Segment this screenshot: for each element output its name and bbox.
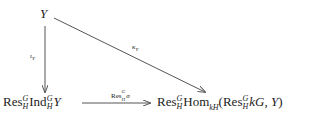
- y-text: Y: [53, 94, 60, 109]
- iota-sub: Y: [32, 56, 35, 61]
- sub-h: H: [47, 103, 53, 111]
- res-text: Res: [3, 94, 23, 109]
- paren-close: ): [278, 94, 282, 109]
- node-y-text: Y: [40, 6, 47, 21]
- sub-h: H: [177, 103, 183, 111]
- label-iota: ιY: [30, 52, 35, 61]
- ind-text: Ind: [29, 94, 46, 109]
- kappa-sub: Y: [135, 47, 138, 52]
- arrow-diagonal: [54, 18, 205, 92]
- sigma-text: σ: [126, 92, 129, 100]
- label-res-sigma: ResGHσ: [111, 88, 130, 104]
- sup-g: G: [122, 88, 126, 96]
- node-y: Y: [40, 6, 47, 22]
- sub-h: H: [242, 103, 248, 111]
- hom-sub: kH: [209, 103, 218, 112]
- res-text-2: Res: [223, 94, 243, 109]
- kg-text: kG,: [249, 94, 271, 109]
- node-res-hom: ResGHHomkH(ResGHkG, Y): [157, 94, 282, 112]
- res-label: Res: [111, 92, 122, 100]
- res-text: Res: [157, 94, 177, 109]
- sub-h: H: [122, 96, 126, 104]
- label-kappa: κY: [132, 43, 138, 52]
- sub-h: H: [23, 103, 29, 111]
- node-res-ind-y: ResGHIndGHY: [3, 94, 61, 111]
- hom-text: Hom: [183, 94, 209, 109]
